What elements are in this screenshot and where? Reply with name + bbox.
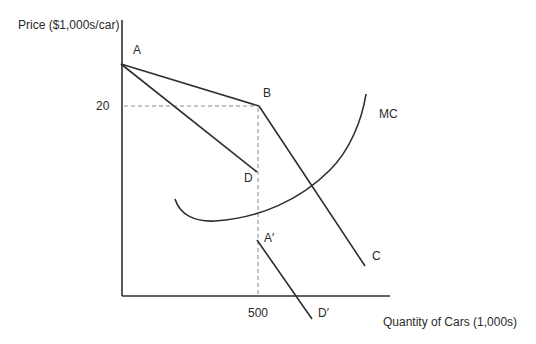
point-label-a: A [133,44,141,56]
point-label-d-prime: D′ [318,307,329,319]
point-label-b: B [263,87,271,99]
point-label-d: D [244,172,253,184]
x-tick-500: 500 [248,307,268,319]
y-tick-20: 20 [96,100,109,112]
diagram-canvas [0,0,536,344]
curve-label-mc: MC [379,108,398,120]
kinked-demand-diagram: Price ($1,000s/car) Quantity of Cars (1,… [0,0,536,344]
x-axis-label: Quantity of Cars (1,000s) [383,316,517,328]
marginal-cost-curve [175,94,366,221]
point-label-c: C [372,250,381,262]
point-label-a-prime: A′ [264,232,274,244]
demand-segment-ab [121,64,259,106]
y-axis-label: Price ($1,000s/car) [18,19,119,31]
curve-ad [121,64,257,172]
